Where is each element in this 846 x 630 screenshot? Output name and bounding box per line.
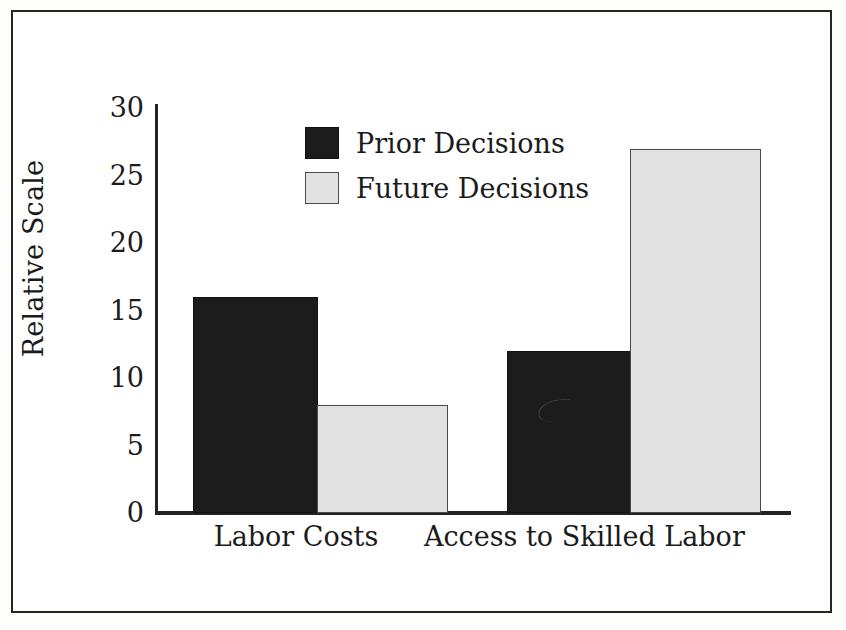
y-tick-20: 20	[84, 229, 144, 256]
y-tick-10: 10	[84, 364, 144, 391]
x-category-label-labor-costs: Labor Costs	[196, 522, 396, 552]
y-tick-15: 15	[84, 297, 144, 324]
legend-label-future-decisions: Future Decisions	[356, 175, 589, 202]
chart-legend: Prior Decisions Future Decisions	[305, 126, 589, 216]
legend-swatch-future-decisions	[305, 172, 339, 204]
scan-artifact-mark	[537, 398, 575, 424]
bar-future-access-to-skilled-labor	[630, 149, 761, 514]
legend-entry-prior-decisions: Prior Decisions	[305, 126, 589, 160]
legend-swatch-prior-decisions	[305, 127, 339, 159]
bar-prior-access-to-skilled-labor	[507, 351, 631, 513]
y-axis-title: Relative Scale	[18, 109, 49, 409]
legend-entry-future-decisions: Future Decisions	[305, 171, 589, 205]
bar-future-labor-costs	[317, 405, 448, 513]
y-tick-5: 5	[84, 432, 144, 459]
y-tick-25: 25	[84, 162, 144, 189]
y-tick-30: 30	[84, 94, 144, 121]
y-tick-0: 0	[84, 499, 144, 526]
chart-figure: Relative Scale 30 25 20 15 10 5 0 Labor …	[0, 0, 846, 630]
x-category-label-access-to-skilled-labor: Access to Skilled Labor	[424, 522, 728, 552]
legend-label-prior-decisions: Prior Decisions	[356, 130, 565, 157]
bar-prior-labor-costs	[193, 297, 318, 513]
